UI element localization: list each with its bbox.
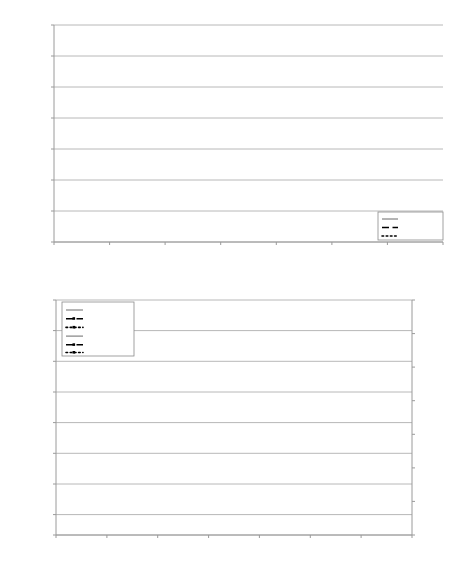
bottom-chart-svg (0, 290, 471, 586)
bottom-legend-marker-60-a (73, 317, 76, 320)
bottom-legend-marker-30-b (73, 351, 76, 354)
top-chart-legend (378, 212, 443, 240)
bottom-chart-legend (62, 302, 134, 356)
top-chart-axes (54, 25, 443, 242)
bottom-legend-marker-60-b (73, 343, 76, 346)
top-chart-gridlines (54, 25, 443, 242)
top-chart (0, 0, 471, 290)
bottom-chart (0, 290, 471, 586)
bottom-legend-marker-30-a (73, 326, 76, 329)
figure-page (0, 0, 471, 586)
top-chart-svg (0, 0, 471, 290)
